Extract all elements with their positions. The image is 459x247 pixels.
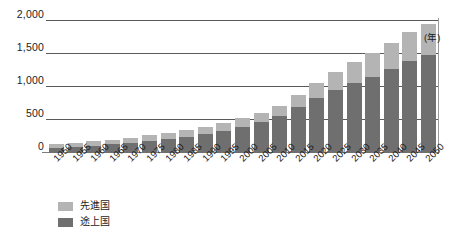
legend-item: 先進国 bbox=[58, 199, 110, 213]
x-axis-unit-label: (年) bbox=[424, 30, 440, 44]
bar-segment-developed bbox=[272, 106, 287, 117]
bar-segment-developing bbox=[421, 55, 436, 153]
legend-swatch-developed bbox=[58, 202, 73, 211]
legend-label: 途上国 bbox=[80, 217, 110, 227]
legend-swatch-developing bbox=[58, 218, 73, 227]
bar-2035 bbox=[365, 53, 380, 153]
bar-segment-developing bbox=[402, 61, 417, 153]
bar-segment-developing bbox=[384, 69, 399, 153]
bar-2045 bbox=[402, 32, 417, 153]
y-tick-label: 1,000 bbox=[2, 75, 44, 88]
bar-segment-developed bbox=[309, 83, 324, 98]
y-tick-label: 2,000 bbox=[2, 9, 44, 22]
bar-segment-developed bbox=[216, 123, 231, 131]
y-tick-label: 1,500 bbox=[2, 42, 44, 55]
bar-segment-developed bbox=[235, 118, 250, 126]
bar-2025 bbox=[328, 72, 343, 153]
bar-2040 bbox=[384, 43, 399, 153]
bar-2030 bbox=[347, 62, 362, 153]
bar-segment-developing bbox=[365, 77, 380, 153]
y-tick-label: 500 bbox=[2, 108, 44, 121]
bar-segment-developing bbox=[347, 83, 362, 153]
plot-area bbox=[46, 21, 439, 153]
legend: 先進国途上国 bbox=[58, 199, 110, 231]
stacked-bar-chart: 05001,0001,5002,000 19501955196019651970… bbox=[0, 0, 459, 247]
bar-segment-developed bbox=[402, 32, 417, 62]
x-axis: 1950195519601965197019751980198519901995… bbox=[0, 153, 459, 199]
bar-segment-developed bbox=[254, 113, 269, 122]
bar-segment-developed bbox=[347, 62, 362, 83]
bar-segment-developed bbox=[198, 127, 213, 134]
bar-segment-developed bbox=[384, 43, 399, 69]
y-axis: 05001,0001,5002,000 bbox=[0, 21, 44, 153]
bar-segment-developed bbox=[291, 95, 306, 108]
bar-segment-developed bbox=[328, 72, 343, 90]
bar-2020 bbox=[309, 83, 324, 153]
bar-segment-developed bbox=[365, 53, 380, 77]
legend-item: 途上国 bbox=[58, 215, 110, 229]
legend-label: 先進国 bbox=[80, 201, 110, 211]
bars-layer bbox=[46, 21, 439, 153]
y-tick-label: 0 bbox=[2, 141, 44, 154]
